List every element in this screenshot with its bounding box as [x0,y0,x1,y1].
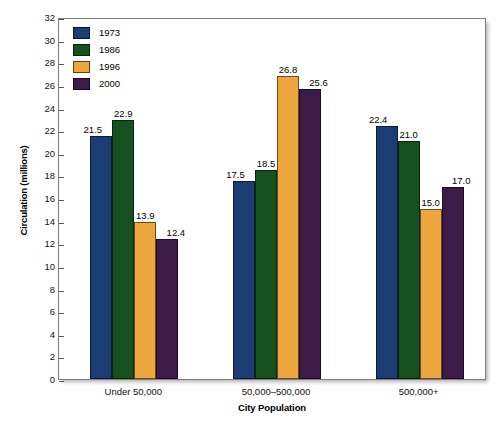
bar: 18.5 [255,170,277,379]
bar-value-label: 17.0 [452,175,471,186]
x-axis-title: City Population [58,402,486,413]
y-axis-tick-label: 0 [50,374,55,385]
y-axis-title: Circulation (millions) [18,106,29,276]
legend-swatch-icon [73,27,90,39]
bar-value-label: 13.9 [136,210,155,221]
bar: 17.5 [233,181,255,379]
y-axis-tick-mark [59,64,64,65]
y-axis-tick-label: 22 [44,125,55,136]
bar-value-label: 21.5 [84,124,102,135]
y-axis-tick-label: 18 [44,170,55,181]
bar-value-label: 26.8 [279,64,298,75]
bar: 15.0 [420,209,442,379]
y-axis-tick-mark [59,132,64,133]
bar: 22.4 [376,126,398,379]
bar: 12.4 [156,239,178,379]
x-axis-tick-label: 50,000–500,000 [242,386,311,397]
y-axis-tick-mark [59,358,64,359]
y-axis-tick-mark [59,19,64,20]
bar-value-label: 12.4 [167,227,186,238]
y-axis-tick-mark [59,268,64,269]
y-axis-tick-mark [59,381,64,382]
bar: 25.6 [299,89,321,379]
y-axis-tick-label: 24 [44,103,55,114]
y-axis-tick-mark [59,87,64,88]
y-axis-tick-label: 2 [50,351,55,362]
legend-item[interactable]: 2000 [73,76,120,91]
bar-value-label: 17.5 [226,169,245,180]
y-axis-tick-label: 10 [44,261,55,272]
y-axis-tick-label: 6 [50,306,55,317]
y-axis-tick-label: 12 [44,238,55,249]
legend-item[interactable]: 1996 [73,59,120,74]
bar: 21.5 [90,136,112,379]
y-axis-tick-label: 28 [44,57,55,68]
y-axis-tick-label: 4 [50,329,55,340]
y-axis-tick-mark [59,155,64,156]
y-axis-tick-label: 16 [44,193,55,204]
chart-legend: 1973198619962000 [73,25,120,93]
y-axis-tick-label: 30 [44,35,55,46]
plot-area: 0246810121416182022242628303221.522.913.… [59,19,485,379]
y-axis-tick-mark [59,223,64,224]
bar: 13.9 [134,222,156,379]
y-axis-tick-mark [59,313,64,314]
y-axis-tick-label: 14 [44,216,55,227]
y-axis-tick-mark [59,177,64,178]
legend-swatch-icon [73,44,90,56]
bar-value-label: 22.4 [369,114,388,125]
bar: 17.0 [442,187,464,379]
x-axis-tick-label: Under 50,000 [105,386,163,397]
y-axis-tick-mark [59,200,64,201]
bar-value-label: 21.0 [399,129,418,140]
bar: 22.9 [112,120,134,379]
legend-swatch-icon [73,61,90,73]
bar-chart: Circulation (millions) 02468101214161820… [0,0,499,425]
bar-value-label: 18.5 [257,158,276,169]
legend-item-label: 1996 [99,61,120,72]
bar-value-label: 15.0 [421,197,440,208]
legend-swatch-icon [73,78,90,90]
y-axis-tick-label: 26 [44,80,55,91]
bar: 26.8 [277,76,299,379]
legend-item[interactable]: 1986 [73,42,120,57]
y-axis-tick-label: 32 [44,12,55,23]
bar-value-label: 25.6 [309,77,328,88]
x-axis-tick-label: 500,000+ [399,386,439,397]
bar: 21.0 [398,141,420,379]
y-axis-tick-label: 20 [44,148,55,159]
legend-item[interactable]: 1973 [73,25,120,40]
legend-item-label: 2000 [99,78,120,89]
plot-frame: 0246810121416182022242628303221.522.913.… [58,18,486,380]
y-axis-tick-mark [59,42,64,43]
y-axis-tick-mark [59,291,64,292]
y-axis-tick-label: 8 [50,284,55,295]
bar-value-label: 22.9 [114,108,133,119]
legend-item-label: 1986 [99,44,120,55]
y-axis-tick-mark [59,245,64,246]
y-axis-tick-mark [59,336,64,337]
y-axis-tick-mark [59,110,64,111]
legend-item-label: 1973 [99,27,120,38]
